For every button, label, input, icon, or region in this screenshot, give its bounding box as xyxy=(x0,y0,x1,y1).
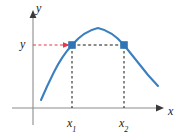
point-marker-x1[interactable] xyxy=(68,41,76,49)
x2-subscript: 2 xyxy=(124,125,128,134)
drop-lines-group xyxy=(72,46,124,108)
x2-tick-label: x2 xyxy=(119,117,128,132)
y-axis-label: y xyxy=(36,2,41,14)
y-level-arrow-group xyxy=(33,42,70,48)
point-marker-x2[interactable] xyxy=(120,41,128,49)
y-value-label: y xyxy=(20,38,25,50)
x1-subscript: 1 xyxy=(72,125,76,134)
parabola-curve xyxy=(41,28,158,100)
x-axis-arrow-icon xyxy=(156,105,164,112)
x-axis-label: x xyxy=(168,105,173,117)
markers-group xyxy=(68,41,128,49)
x1-tick-label: x1 xyxy=(67,117,76,132)
figure-canvas xyxy=(0,0,183,136)
parabola-figure: y x y x1 x2 xyxy=(0,0,183,136)
